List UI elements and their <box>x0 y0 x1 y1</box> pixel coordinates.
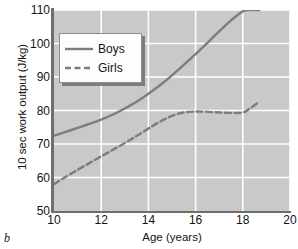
x-axis-tick-labels: 101214161820 <box>0 214 298 232</box>
x-tick-label: 18 <box>223 214 263 226</box>
legend-item-boys: Boys <box>65 40 139 58</box>
legend-label-girls: Girls <box>98 62 123 74</box>
y-tick-label: 100 <box>16 38 50 50</box>
legend-line-solid-icon <box>65 44 93 54</box>
x-axis-label: Age (years) <box>53 231 291 243</box>
panel-letter: b <box>4 231 10 246</box>
x-axis-line <box>51 211 291 213</box>
legend: Boys Girls <box>59 33 142 83</box>
x-tick-label: 10 <box>34 214 74 226</box>
legend-item-girls: Girls <box>65 59 139 77</box>
x-tick-label: 20 <box>270 214 298 226</box>
y-tick-label: 90 <box>16 71 50 83</box>
x-tick-label: 12 <box>81 214 121 226</box>
series-line-girls <box>54 102 259 184</box>
figure-panel: 10 sec work output (J/kg) 50607080901001… <box>0 0 298 249</box>
x-tick-label: 14 <box>128 214 168 226</box>
legend-label-boys: Boys <box>98 43 125 55</box>
x-tick-label: 16 <box>176 214 216 226</box>
y-tick-label: 80 <box>16 105 50 117</box>
y-tick-label: 70 <box>16 138 50 150</box>
y-tick-label: 60 <box>16 172 50 184</box>
y-axis-tick-labels: 5060708090100110 <box>14 0 50 249</box>
legend-line-dashed-icon <box>65 63 93 73</box>
y-tick-label: 110 <box>16 4 50 16</box>
